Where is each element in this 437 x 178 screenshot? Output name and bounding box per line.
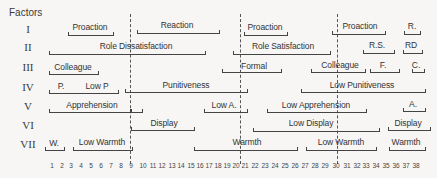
tick-label: 2	[60, 162, 64, 169]
factor-label-VI: VI	[17, 119, 39, 131]
tick-label: 38	[412, 162, 419, 169]
span-label: Low A.	[212, 100, 237, 110]
span-label: RD	[405, 40, 417, 50]
span-label: Low Display	[289, 118, 334, 128]
span-bracket	[233, 51, 331, 55]
span-label: Apprehension	[66, 100, 117, 110]
tick-label: 27	[301, 162, 308, 169]
tick-label: 20	[232, 162, 239, 169]
tick-label: 25	[281, 162, 288, 169]
tick-label: 31	[343, 162, 350, 169]
span-label: W.	[49, 138, 59, 148]
tick-label: 7	[109, 162, 113, 169]
span-label: Colleague	[321, 60, 358, 70]
span-bracket	[363, 50, 395, 54]
tick-label: 12	[158, 162, 165, 169]
tick-label: 29	[321, 162, 328, 169]
span-label: Formal	[241, 61, 267, 71]
span-label: Display	[150, 118, 177, 128]
span-label: Reaction	[161, 20, 194, 30]
tick-label: 6	[99, 162, 103, 169]
span-label: P.	[58, 81, 65, 91]
span-label: Warmth	[233, 137, 262, 147]
span-bracket	[130, 109, 143, 113]
factor-label-III: III	[17, 61, 39, 73]
factors-heading: Factors	[9, 7, 42, 18]
span-label: Punitiveness	[163, 80, 210, 90]
span-bracket	[389, 147, 426, 151]
tick-label: 16	[196, 162, 203, 169]
span-label: Proaction	[342, 21, 377, 31]
span-label: Proaction	[72, 22, 107, 32]
tick-label: 28	[311, 162, 318, 169]
tick-label: 33	[362, 162, 369, 169]
span-bracket	[403, 50, 423, 54]
span-label: Low P	[85, 81, 108, 91]
span-bracket	[332, 31, 386, 35]
span-bracket	[306, 147, 377, 151]
tick-label: 22	[251, 162, 258, 169]
span-label: R.	[408, 21, 416, 31]
tick-label: 15	[187, 162, 194, 169]
factor-label-V: V	[17, 100, 39, 112]
factor-label-I: I	[17, 23, 39, 35]
span-bracket	[73, 147, 133, 151]
span-label: Colleague	[54, 62, 91, 72]
tick-label: 4	[79, 162, 83, 169]
span-label: Warmth	[392, 137, 421, 147]
span-bracket	[137, 30, 220, 34]
tick-label: 21	[241, 162, 248, 169]
tick-label: 23	[261, 162, 268, 169]
span-bracket	[253, 128, 380, 132]
span-bracket	[49, 51, 206, 55]
span-label: Role Dissatisfaction	[100, 41, 173, 51]
tick-label: 18	[214, 162, 221, 169]
tick-label: 26	[291, 162, 298, 169]
span-label: F.	[380, 60, 386, 70]
span-label: Low Punitiveness	[330, 80, 395, 90]
tick-label: 30	[332, 162, 339, 169]
tick-label: 9	[129, 162, 133, 169]
tick-label: 3	[69, 162, 73, 169]
span-label: Low Warmth	[318, 137, 364, 147]
factor-label-VII: VII	[17, 138, 39, 150]
tick-label: 10	[139, 162, 146, 169]
tick-label: 35	[382, 162, 389, 169]
span-label: Proaction	[247, 22, 282, 32]
span-label: Low Apprehension	[282, 100, 350, 110]
span-label: R.S.	[369, 40, 385, 50]
span-label: C.	[412, 60, 420, 70]
span-bracket	[194, 147, 298, 151]
factor-label-II: II	[17, 41, 39, 53]
tick-label: 14	[177, 162, 184, 169]
tick-label: 34	[372, 162, 379, 169]
tick-label: 24	[271, 162, 278, 169]
span-label: A.	[409, 99, 417, 109]
span-bracket	[404, 31, 421, 35]
span-label: Display	[394, 118, 421, 128]
tick-label: 17	[205, 162, 212, 169]
span-bracket	[68, 32, 114, 36]
tick-label: 32	[353, 162, 360, 169]
tick-label: 8	[119, 162, 123, 169]
tick-label: 1	[50, 162, 54, 169]
tick-label: 19	[223, 162, 230, 169]
factor-label-IV: IV	[17, 81, 39, 93]
tick-label: 13	[168, 162, 175, 169]
span-bracket	[244, 32, 288, 36]
tick-label: 36	[392, 162, 399, 169]
tick-label: 37	[402, 162, 409, 169]
span-label: Role Satisfaction	[252, 41, 314, 51]
span-label: Low Warmth	[79, 137, 125, 147]
tick-label: 5	[89, 162, 93, 169]
tick-label: 11	[150, 162, 157, 169]
